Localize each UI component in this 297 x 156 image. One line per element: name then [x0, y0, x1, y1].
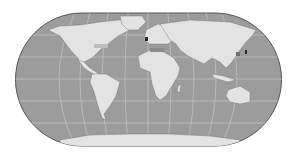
world-map: [0, 0, 297, 156]
antarctica: [60, 134, 240, 150]
